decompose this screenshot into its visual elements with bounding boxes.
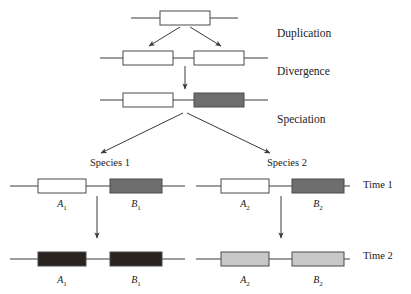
chromosome-layer xyxy=(10,11,350,266)
gene-duplication-diagram: DuplicationDivergenceSpeciationSpecies 1… xyxy=(0,0,411,294)
duplicate-gene-left[interactable] xyxy=(123,51,173,65)
species1-time2-chromosome xyxy=(10,252,185,266)
species1-time1-chromosome xyxy=(10,179,185,193)
gene-label-subscript: 1 xyxy=(137,204,141,212)
duplication-arrow-right xyxy=(190,27,221,46)
species2-time2-chromosome xyxy=(196,252,350,266)
species2-time2-gene-b2[interactable] xyxy=(292,252,344,266)
stage-label-divergence: Divergence xyxy=(277,65,330,78)
species1-time1-gene-a1[interactable] xyxy=(38,179,86,193)
gene-label-b1-time1: B1 xyxy=(131,198,141,212)
label-time-2: Time 2 xyxy=(363,250,393,261)
gene-label-subscript: 1 xyxy=(137,280,141,288)
gene-label-subscript: 1 xyxy=(63,280,67,288)
gene-label-subscript: 2 xyxy=(319,280,323,288)
gene-label-b2-time1: B2 xyxy=(313,198,323,212)
ancestral-gene[interactable] xyxy=(160,11,210,25)
gene-label-subscript: 2 xyxy=(319,204,323,212)
gene-label-a2-time2: A2 xyxy=(239,274,250,288)
species1-time2-gene-b1[interactable] xyxy=(110,252,162,266)
duplication-arrow-left xyxy=(149,27,180,46)
species2-time1-gene-a2[interactable] xyxy=(221,179,269,193)
gene-label-a2-time1: A2 xyxy=(239,198,250,212)
diagram-canvas: DuplicationDivergenceSpeciationSpecies 1… xyxy=(0,0,411,294)
gene-label-a1-time2: A1 xyxy=(56,274,67,288)
gene-label-b1-time2: B1 xyxy=(131,274,141,288)
label-layer: DuplicationDivergenceSpeciationSpecies 1… xyxy=(56,27,392,288)
label-species-1: Species 1 xyxy=(90,157,130,168)
gene-label-a1-time1: A1 xyxy=(56,198,67,212)
species2-time1-chromosome xyxy=(196,179,350,193)
stage-label-duplication: Duplication xyxy=(277,27,332,40)
diverged-gene-b[interactable] xyxy=(194,93,244,107)
duplicated-chromosome xyxy=(100,51,268,65)
species2-time2-gene-a2[interactable] xyxy=(221,252,269,266)
speciation-arrow-left xyxy=(101,113,183,153)
species1-time1-gene-b1[interactable] xyxy=(110,179,162,193)
label-species-2: Species 2 xyxy=(267,157,307,168)
gene-label-subscript: 2 xyxy=(246,204,250,212)
ancestral-single-gene xyxy=(131,11,238,25)
diverged-gene-a[interactable] xyxy=(123,93,173,107)
diverged-chromosome xyxy=(100,93,268,107)
label-time-1: Time 1 xyxy=(363,179,393,190)
gene-label-subscript: 1 xyxy=(63,204,67,212)
species2-time1-gene-b2[interactable] xyxy=(292,179,344,193)
species1-time2-gene-a1[interactable] xyxy=(38,252,86,266)
gene-label-b2-time2: B2 xyxy=(313,274,323,288)
speciation-arrow-right xyxy=(187,113,270,153)
duplicate-gene-right[interactable] xyxy=(194,51,244,65)
gene-label-subscript: 2 xyxy=(246,280,250,288)
stage-label-speciation: Speciation xyxy=(277,113,326,126)
